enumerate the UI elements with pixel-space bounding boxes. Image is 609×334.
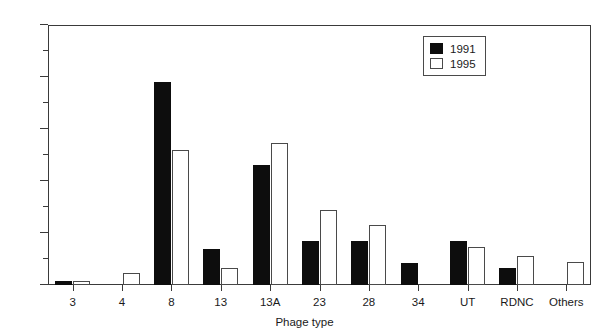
x-axis-tick-label: 4 — [119, 296, 125, 308]
legend-label-1995: 1995 — [450, 58, 476, 70]
bar-Others-1995 — [567, 262, 584, 285]
bar-34-1991 — [401, 263, 418, 285]
x-axis-tick — [566, 285, 567, 291]
bar-3-1991 — [55, 281, 72, 285]
x-axis-tick — [270, 285, 271, 291]
bar-13-1991 — [203, 249, 220, 285]
y-axis-minor-tick — [43, 206, 48, 207]
legend-swatch-1995 — [430, 58, 443, 69]
x-axis-tick-label: 23 — [313, 296, 326, 308]
x-axis-tick — [122, 285, 123, 291]
bar-UT-1991 — [450, 241, 467, 285]
bar-RDNC-1995 — [517, 256, 534, 285]
y-axis-minor-tick — [43, 102, 48, 103]
bar-3-1995 — [73, 281, 90, 285]
y-axis-major-tick — [40, 24, 48, 25]
chart-legend: 1991 1995 — [423, 36, 486, 76]
x-axis-tick — [517, 285, 518, 291]
y-axis-major-tick — [40, 76, 48, 77]
x-axis-tick — [418, 285, 419, 291]
x-axis-tick — [369, 285, 370, 291]
bar-UT-1995 — [468, 247, 485, 285]
x-axis-tick — [468, 285, 469, 291]
x-axis-tick — [171, 285, 172, 291]
bar-8-1991 — [154, 82, 171, 285]
bar-13A-1991 — [253, 165, 270, 285]
x-axis-tick-label: 3 — [69, 296, 75, 308]
x-axis-tick-label: 8 — [168, 296, 174, 308]
y-axis-major-tick — [40, 180, 48, 181]
x-axis-tick-label: 34 — [412, 296, 425, 308]
legend-swatch-1991 — [430, 43, 443, 54]
bar-23-1995 — [320, 210, 337, 285]
legend-label-1991: 1991 — [450, 43, 476, 55]
bar-RDNC-1991 — [499, 268, 516, 285]
bar-13-1995 — [221, 268, 238, 285]
y-axis-major-tick — [40, 284, 48, 285]
bar-13A-1995 — [271, 143, 288, 285]
x-axis-tick-label: Others — [549, 296, 584, 308]
x-axis-tick — [221, 285, 222, 291]
bar-chart-figure: 01020304050 3481313A232834UTRDNCOthers 1… — [0, 0, 609, 334]
x-axis-tick-label: UT — [460, 296, 475, 308]
x-axis-tick — [320, 285, 321, 291]
y-axis-major-tick — [40, 128, 48, 129]
bar-28-1995 — [369, 225, 386, 285]
bar-23-1991 — [302, 241, 319, 285]
x-axis-tick-label: 28 — [362, 296, 375, 308]
x-axis-tick-label: 13A — [260, 296, 280, 308]
y-axis-major-tick — [40, 232, 48, 233]
bar-28-1991 — [351, 241, 368, 285]
y-axis-minor-tick — [43, 50, 48, 51]
y-axis-minor-tick — [43, 154, 48, 155]
y-axis: 01020304050 — [0, 0, 48, 334]
x-axis-tick-label: 13 — [214, 296, 227, 308]
y-axis-minor-tick — [43, 258, 48, 259]
legend-item-1991: 1991 — [430, 41, 476, 56]
bar-8-1995 — [172, 150, 189, 285]
x-axis-title: Phage type — [0, 316, 609, 328]
x-axis-tick-label: RDNC — [500, 296, 533, 308]
x-axis-tick — [73, 285, 74, 291]
bar-4-1995 — [123, 273, 140, 285]
legend-item-1995: 1995 — [430, 56, 476, 71]
